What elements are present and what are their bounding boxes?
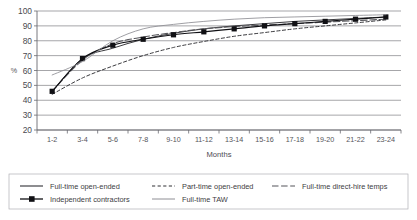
x-axis-title: Months: [207, 150, 232, 159]
series-marker-3-8: [292, 21, 297, 26]
chart-figure: 20304050607080901001-23-45-67-89-1011-12…: [0, 0, 417, 220]
series-marker-3-3: [141, 37, 146, 42]
xtick-label-5: 11-12: [195, 135, 213, 144]
ytick-label-60: 60: [23, 66, 33, 76]
xtick-label-8: 17-18: [286, 135, 304, 144]
line-chart: 20304050607080901001-23-45-67-89-1011-12…: [0, 0, 417, 220]
y-axis-title: %: [11, 66, 18, 75]
ytick-label-80: 80: [23, 36, 33, 46]
xtick-label-7: 15-16: [255, 135, 273, 144]
xtick-label-0: 1-2: [47, 135, 57, 144]
xtick-label-1: 3-4: [77, 135, 87, 144]
xtick-label-3: 7-8: [138, 135, 148, 144]
ytick-label-30: 30: [23, 110, 33, 120]
legend-label-2: Full-time direct-hire temps: [302, 182, 388, 191]
series-line-4: [52, 15, 386, 75]
legend-label-0: Full-time open-ended: [50, 182, 120, 191]
ytick-label-90: 90: [23, 21, 33, 31]
xtick-label-6: 13-14: [225, 135, 243, 144]
ytick-label-50: 50: [23, 80, 33, 90]
series-marker-3-9: [323, 19, 328, 24]
series-marker-3-0: [50, 89, 55, 94]
legend-item-3[interactable]: Independent contractors: [20, 195, 130, 204]
legend-label-1: Part-time open-ended: [182, 182, 254, 191]
ytick-label-40: 40: [23, 95, 33, 105]
ytick-label-20: 20: [23, 125, 33, 135]
legend-item-2[interactable]: Full-time direct-hire temps: [272, 182, 388, 191]
legend-item-4[interactable]: Full-time TAW: [152, 195, 228, 204]
series-marker-3-5: [201, 29, 206, 34]
xtick-label-11: 23-24: [377, 135, 395, 144]
legend-marker-3: [29, 196, 35, 202]
ytick-label-100: 100: [18, 6, 32, 16]
series-marker-3-2: [110, 43, 115, 48]
xtick-label-4: 9-10: [166, 135, 180, 144]
series-marker-3-4: [171, 32, 176, 37]
xtick-label-9: 19-20: [316, 135, 334, 144]
legend-label-4: Full-time TAW: [182, 195, 228, 204]
xtick-label-2: 5-6: [108, 135, 118, 144]
xtick-label-10: 21-22: [346, 135, 364, 144]
ytick-label-70: 70: [23, 51, 33, 61]
legend-item-1[interactable]: Part-time open-ended: [152, 182, 254, 191]
legend-label-3: Independent contractors: [50, 195, 130, 204]
legend-item-0[interactable]: Full-time open-ended: [20, 182, 120, 191]
series-marker-3-7: [262, 23, 267, 28]
series-line-1: [52, 20, 386, 94]
series-marker-3-6: [232, 26, 237, 31]
series-marker-3-10: [353, 17, 358, 22]
